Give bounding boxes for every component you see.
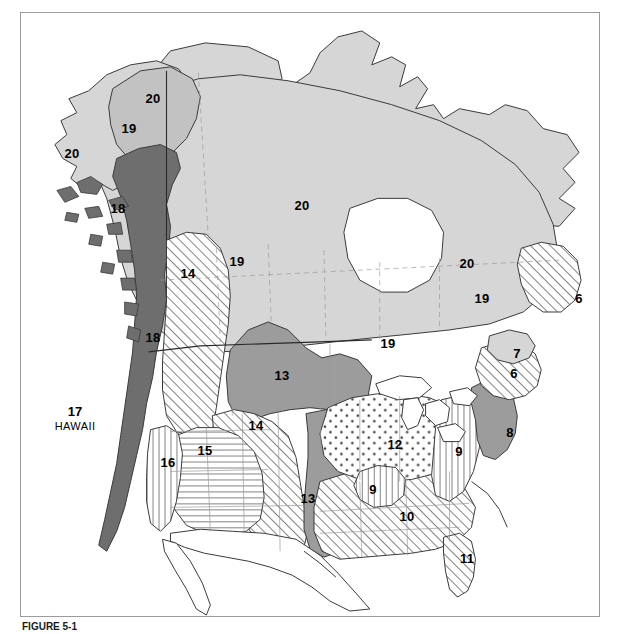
label-9-ozark: 9 [369,483,376,496]
label-20-quebec: 20 [460,257,475,270]
hawaii-callout: 17 HAWAII [55,404,96,434]
label-8-northeast: 8 [506,426,513,439]
figure-caption-label: FIGURE 5-1 [22,621,77,632]
zone-14-northwest [163,232,231,435]
label-14-greatbasn: 14 [249,419,264,432]
label-19-alaska: 19 [122,122,137,135]
label-20-alaska: 20 [65,147,80,160]
label-16-california: 16 [161,456,176,469]
map-frame: 2019201820191420196181976138121491516913… [20,12,600,617]
label-6-maritimes: 6 [510,367,517,380]
label-19-greatlks: 19 [381,337,396,350]
label-12-midwest: 12 [388,438,403,451]
label-13-texas: 13 [301,492,316,505]
zone-16-california [147,426,183,532]
label-14-northwest: 14 [181,267,196,280]
hawaii-zone-number: 17 [55,404,96,420]
label-18-alaska: 18 [111,202,126,215]
label-10-south: 10 [400,510,415,523]
figure-container: 2019201820191420196181976138121491516913… [0,0,617,634]
label-13-rockies: 13 [275,369,290,382]
label-20-arctic: 20 [295,199,310,212]
label-9-appalach: 9 [455,445,462,458]
label-19-prairie: 19 [230,255,245,268]
label-7-maritimes: 7 [513,347,520,360]
label-20-yukon: 20 [146,92,161,105]
label-18-coast: 18 [146,331,161,344]
figure-caption: FIGURE 5-1 [22,621,602,634]
label-6-labrador: 6 [575,292,582,305]
hudson-bay [344,198,444,292]
hawaii-label: HAWAII [55,420,96,434]
label-11-florida: 11 [460,552,474,565]
label-19-ontario: 19 [475,292,490,305]
map-layer-zones [55,31,581,615]
label-15-basin: 15 [198,444,213,457]
map-canvas [21,13,599,616]
map-svg [21,13,599,616]
